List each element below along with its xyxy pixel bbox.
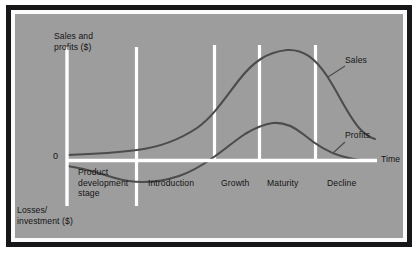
figure-white-mat: Sales and profits ($) Losses/ investment… xyxy=(11,10,407,242)
x-axis-label: Time xyxy=(381,154,400,165)
stage-label-product-development-stage: Product development stage xyxy=(78,167,128,199)
series-label-profits: Profits xyxy=(345,130,370,141)
y-axis-label-positive: Sales and profits ($) xyxy=(54,31,93,52)
y-axis-label-negative: Losses/ investment ($) xyxy=(17,205,73,226)
chart-plot-area: Sales and profits ($) Losses/ investment… xyxy=(15,14,403,238)
chart-panel: Sales and profits ($) Losses/ investment… xyxy=(15,14,403,238)
stage-label-maturity: Maturity xyxy=(267,178,298,189)
sales-curve xyxy=(67,50,375,155)
product-life-cycle-figure: Sales and profits ($) Losses/ investment… xyxy=(0,0,419,253)
stage-label-growth: Growth xyxy=(221,178,249,189)
series-label-sales: Sales xyxy=(345,55,367,66)
stage-label-decline: Decline xyxy=(327,178,356,189)
sales-leader-line xyxy=(328,66,345,77)
zero-tick-label: 0 xyxy=(53,151,58,161)
stage-label-introduction: Introduction xyxy=(148,178,194,189)
figure-outer-border: Sales and profits ($) Losses/ investment… xyxy=(6,5,412,247)
profits-leader-line xyxy=(333,142,345,153)
